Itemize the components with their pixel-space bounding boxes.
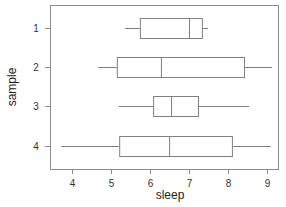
x-tick-label: 8 [226,178,232,189]
x-axis-label: sleep [156,188,185,202]
y-axis: 1234 [33,23,50,152]
iqr-box [154,97,199,117]
boxes-group [61,19,272,157]
box-sample-3 [119,97,249,117]
y-tick-label: 4 [33,141,39,152]
x-tick-label: 7 [187,178,193,189]
x-axis: 456789 [70,170,271,190]
x-tick-label: 5 [109,178,115,189]
y-tick-label: 2 [33,62,39,73]
y-tick-label: 3 [33,101,39,112]
iqr-box [120,137,233,157]
iqr-box [117,58,244,78]
box-sample-4 [61,137,271,157]
box-sample-2 [98,58,272,78]
y-axis-label: sample [5,67,19,106]
iqr-box [140,19,202,39]
y-tick-label: 1 [33,23,39,34]
x-tick-label: 4 [70,178,76,189]
boxplot-chart: 456789 1234 sleep sample [0,0,286,207]
x-tick-label: 9 [265,178,271,189]
box-sample-1 [125,19,208,39]
x-tick-label: 6 [148,178,154,189]
